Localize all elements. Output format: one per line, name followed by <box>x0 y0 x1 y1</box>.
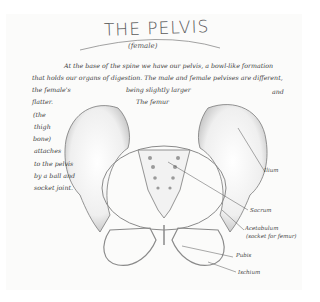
right-obturator <box>172 228 224 265</box>
label-acetabulum-note: (socket for femur) <box>246 234 296 240</box>
sheet-subtitle: (female) <box>128 43 157 50</box>
body-text-line: bone) <box>33 136 51 142</box>
sheet-title: THE PELVIS <box>104 16 210 40</box>
label-ischium: Ischium <box>238 270 260 276</box>
body-text-line: attaches <box>34 148 61 154</box>
label-ilium: Ilium <box>264 168 278 174</box>
body-text-line: being slightly larger <box>126 87 191 93</box>
body-text-line: that holds our organs of digestion. The … <box>32 75 283 81</box>
sacrum <box>138 150 190 218</box>
label-pubis: Pubis <box>236 253 251 259</box>
label-acetabulum: Acetabulum <box>245 226 278 232</box>
body-text-line: and <box>272 89 284 95</box>
body-text-line: At the base of the spine we have our pel… <box>64 63 273 69</box>
body-text-line: socket joint. <box>34 185 73 191</box>
body-text-line: thigh <box>34 124 51 130</box>
body-text-line: by a ball and <box>34 173 75 179</box>
body-text-line: the female's <box>32 87 71 93</box>
body-text-line: to the pelvis <box>34 161 73 167</box>
body-text-line: (the <box>33 112 46 118</box>
label-sacrum: Sacrum <box>250 208 272 214</box>
body-text-line: flatter. <box>32 99 53 105</box>
body-text-line: The femur <box>136 99 169 105</box>
left-obturator <box>104 228 156 265</box>
left-ilium <box>65 106 130 232</box>
